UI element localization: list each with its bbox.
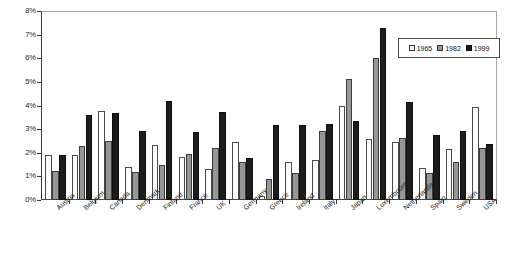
y-axis-tick-mark [37,200,41,201]
bar-sweden-1999 [460,131,467,200]
y-axis-tick-label: 6% [8,54,36,62]
bar-luxembourg-1965 [366,139,373,200]
bar-france-1999 [193,132,200,200]
bar-usa-1999 [486,144,493,200]
bar-germany-1982 [239,162,246,200]
legend-swatch-icon [437,45,443,51]
bar-austria-1999 [59,155,66,200]
bar-belgium-1999 [86,115,93,200]
bar-canada-1982 [105,141,112,200]
legend-item-1999: 1999 [466,45,490,52]
bar-sweden-1965 [446,149,453,200]
bar-sweden-1982 [453,162,460,200]
bar-denmark-1982 [132,172,139,200]
bar-finland-1982 [159,165,166,200]
y-axis-tick-label: 4% [8,102,36,110]
bar-ireland-1999 [299,125,306,200]
bar-japan-1982 [346,79,353,200]
bar-spain-1999 [433,135,440,200]
bar-denmark-1999 [139,131,146,200]
legend-item-1965: 1965 [409,45,433,52]
bar-belgium-1982 [79,146,86,200]
y-axis-tick-label: 7% [8,31,36,39]
legend: 196519821999 [398,38,500,58]
legend-swatch-icon [409,45,415,51]
bar-canada-1999 [112,113,119,200]
bar-luxembourg-1982 [373,58,380,200]
legend-item-1982: 1982 [437,45,461,52]
bar-italy-1982 [319,131,326,200]
x-axis-label-uk: UK [215,199,227,211]
legend-label: 1982 [445,45,461,52]
y-axis-tick-label: 2% [8,149,36,157]
legend-swatch-icon [466,45,472,51]
bar-japan-1965 [339,106,346,200]
x-axis-tick-mark [229,200,230,204]
bar-luxembourg-1999 [380,28,387,200]
bar-ireland-1982 [292,173,299,200]
bar-finland-1999 [166,101,173,200]
bar-japan-1999 [353,121,360,200]
y-axis-tick-label: 5% [8,78,36,86]
bar-usa-1982 [479,148,486,200]
bar-greece-1999 [273,125,280,200]
bar-germany-1965 [232,142,239,200]
y-axis-tick-label: 0% [8,196,36,204]
legend-label: 1999 [474,45,490,52]
bar-chart: 0%1%2%3%4%5%6%7%8% AustriaBelgiumCanadaD… [0,0,513,279]
legend-label: 1965 [417,45,433,52]
bar-italy-1999 [326,124,333,200]
bar-france-1982 [186,154,193,200]
bar-uk-1999 [219,112,226,200]
bar-austria-1982 [52,171,59,200]
bar-austria-1965 [45,155,52,200]
bar-uk-1982 [212,148,219,200]
bar-germany-1999 [246,158,253,200]
y-axis-tick-label: 3% [8,125,36,133]
y-axis-tick-label: 8% [8,7,36,15]
bar-usa-1965 [472,107,479,200]
y-axis-tick-label: 1% [8,172,36,180]
bar-canada-1965 [98,111,105,200]
